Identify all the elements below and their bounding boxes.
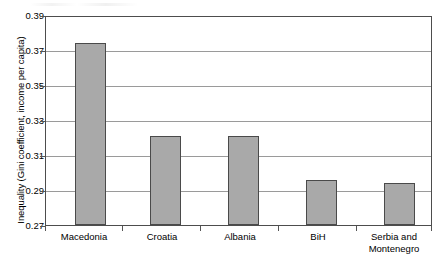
plot-area [45,16,432,226]
bar-chart-figure: Inequality (Gini coefficient, income per… [0,0,444,274]
x-label-serbia-and-montenegro: Serbia and Montenegro [355,231,433,255]
bar-croatia [150,136,181,225]
x-label-croatia: Croatia [123,231,201,243]
bar-bih [306,180,337,225]
bar-serbia-and-montenegro [384,183,415,225]
x-axis-labels: Macedonia Croatia Albania BiH Serbia and… [45,231,432,271]
x-label-bih: BiH [279,231,357,243]
bar-macedonia [75,43,106,225]
scan-artifact [30,3,210,6]
bars-layer [46,17,431,225]
x-label-albania: Albania [201,231,279,243]
bar-albania [228,136,259,225]
x-label-macedonia: Macedonia [45,231,123,243]
